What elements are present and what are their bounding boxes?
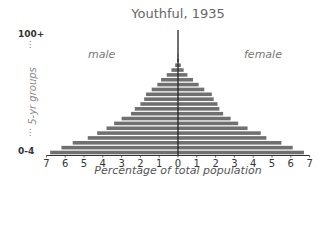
male-bar [114,122,178,126]
female-bar [178,136,266,140]
female-bar [178,141,281,145]
male-bar [50,151,178,155]
male-bar [73,141,178,145]
female-bar [178,112,223,116]
female-bar [178,97,214,101]
male-bar [152,88,178,92]
male-bar [135,107,178,111]
female-bar [178,83,199,87]
female-bar [178,102,217,106]
male-bar [97,131,178,135]
male-bar [157,83,178,87]
male-bar [161,78,178,82]
female-bar [178,107,219,111]
male-bar [122,117,178,121]
female-bar [178,117,231,121]
female-bar [178,151,304,155]
male-bar [146,93,178,97]
male-bar [167,73,178,77]
x-axis-title: Percentage of total population [0,164,331,177]
female-bar [178,93,212,97]
female-bar [178,126,248,130]
female-bar [178,88,204,92]
female-bar [178,131,261,135]
male-bar [140,102,178,106]
female-bar [178,73,187,77]
female-bar [178,146,293,150]
male-bar [131,112,178,116]
male-bar [144,97,178,101]
female-bar [178,78,193,82]
male-bar [88,136,178,140]
male-bar [61,146,178,150]
female-bar [178,122,238,126]
male-bar [171,68,178,72]
male-bar [107,126,178,130]
female-bar [178,68,184,72]
